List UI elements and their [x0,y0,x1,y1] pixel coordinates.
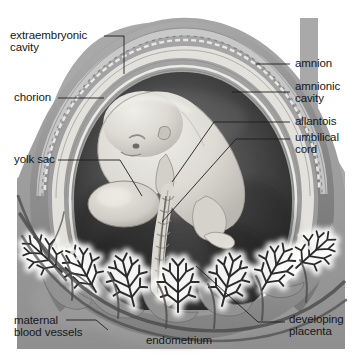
label-line: amnionic [295,80,340,92]
label-line: cavity [295,92,340,104]
label-yolk-sac: yolk sac [14,153,55,165]
label-endometrium: endometrium [146,334,212,346]
label-line: allantois [295,115,336,127]
label-amnion: amnion [295,57,332,69]
label-line: maternal [14,314,82,326]
label-line: placenta [289,325,344,337]
yolk-sac [88,181,160,227]
label-chorion: chorion [14,91,51,103]
label-line: endometrium [146,334,212,346]
label-line: cord [295,143,339,155]
label-line: amnion [295,57,332,69]
label-extraembryonic-cavity: extraembryonic cavity [10,29,87,54]
label-line: extraembryonic [10,29,87,41]
label-developing-placenta: developing placenta [289,313,344,338]
label-line: blood vessels [14,326,82,338]
label-maternal-blood-vessels: maternal blood vessels [14,314,82,339]
label-line: chorion [14,91,51,103]
label-allantois: allantois [295,115,336,127]
label-amnionic-cavity: amnionic cavity [295,80,340,105]
label-line: developing [289,313,344,325]
embryo-development-figure: extraembryonic cavity chorion yolk sac m… [0,0,359,358]
label-line: yolk sac [14,153,55,165]
label-line: cavity [10,41,87,53]
label-line: umbilical [295,131,339,143]
label-umbilical-cord: umbilical cord [295,131,339,156]
